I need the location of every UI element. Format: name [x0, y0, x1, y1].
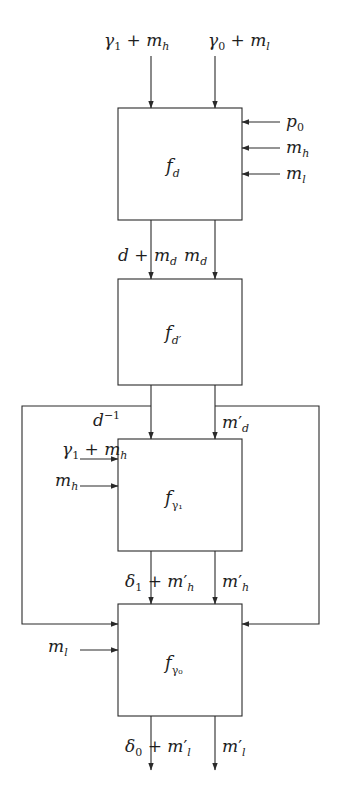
- block-label-f-gamma1: fγ₁: [165, 489, 183, 511]
- label-output-delta0-ml-prime: δ0 + m′l: [125, 738, 191, 758]
- block-fd: [118, 108, 242, 220]
- label-fgamma1-input-mh: mh: [55, 472, 78, 492]
- label-fd-input-mh: mh: [286, 139, 309, 159]
- label-fgamma0-input-ml: ml: [48, 638, 68, 658]
- label-mh-prime: m′h: [222, 573, 249, 593]
- block-label-f-gamma0: fγ₀: [165, 654, 183, 676]
- label-fd-input-p0: p0: [286, 113, 304, 133]
- block-label-fd: fd: [166, 157, 180, 179]
- label-top-input-left: γ1 + mh: [104, 32, 169, 52]
- label-delta1-mh-prime: δ1 + m′h: [125, 573, 194, 593]
- label-fd-to-fdprime-left: d + md: [118, 247, 177, 267]
- block-label-fd-prime: fd′: [165, 324, 181, 346]
- label-fd-input-ml: ml: [286, 165, 306, 185]
- label-d-inverse: d−1: [93, 410, 120, 429]
- label-top-input-right: γ0 + ml: [208, 32, 270, 52]
- label-output-ml-prime: m′l: [222, 738, 246, 758]
- label-md-prime: m′d: [222, 414, 249, 434]
- label-fd-to-fdprime-right: md: [184, 247, 207, 267]
- label-fgamma1-input-gamma1-mh: γ1 + mh: [62, 441, 127, 461]
